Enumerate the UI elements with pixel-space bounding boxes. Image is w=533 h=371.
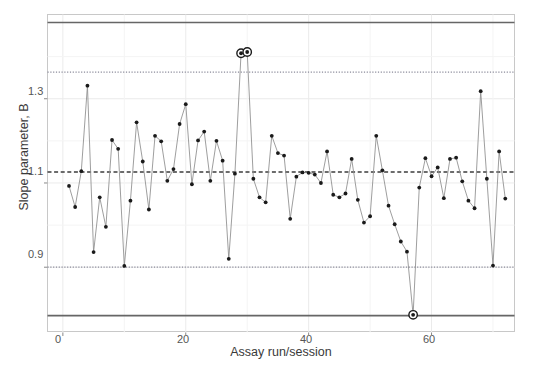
- data-point: [159, 139, 163, 143]
- data-point: [147, 208, 151, 212]
- data-point: [387, 204, 391, 208]
- data-point: [350, 157, 354, 161]
- data-point: [190, 182, 194, 186]
- data-point: [380, 168, 384, 172]
- data-point: [67, 184, 71, 188]
- data-point: [86, 84, 90, 88]
- data-point: [208, 179, 212, 183]
- data-point: [264, 200, 268, 204]
- data-point: [276, 151, 280, 155]
- flagged-point: [409, 311, 417, 319]
- reference-lines: [48, 23, 515, 316]
- data-point: [362, 221, 366, 225]
- data-point: [442, 196, 446, 200]
- data-point: [337, 195, 341, 199]
- data-point: [405, 250, 409, 254]
- data-point: [301, 171, 305, 175]
- chart-root: Slope parameter, B Assay run/session 1.3…: [0, 0, 533, 371]
- data-point: [325, 149, 329, 153]
- data-point: [172, 167, 176, 171]
- data-point: [467, 199, 471, 203]
- data-point: [436, 165, 440, 169]
- data-point: [448, 157, 452, 161]
- data-point: [368, 214, 372, 218]
- data-point: [460, 179, 464, 183]
- data-point: [251, 177, 255, 181]
- data-point: [178, 122, 182, 126]
- data-point: [399, 240, 403, 244]
- data-point: [104, 225, 108, 229]
- data-point: [503, 197, 507, 201]
- data-point: [122, 264, 126, 268]
- data-point: [233, 172, 237, 176]
- data-point: [374, 134, 378, 138]
- data-point: [202, 130, 206, 134]
- data-point: [473, 206, 477, 210]
- data-point: [129, 199, 133, 203]
- data-point: [184, 102, 188, 106]
- data-point: [98, 195, 102, 199]
- axis-ticks: [44, 99, 432, 336]
- data-point: [497, 149, 501, 153]
- data-point: [110, 138, 114, 142]
- data-point: [491, 264, 495, 268]
- data-point: [141, 160, 145, 164]
- data-point: [319, 181, 323, 185]
- data-point: [153, 134, 157, 138]
- data-point: [92, 250, 96, 254]
- data-point: [331, 193, 335, 197]
- data-point: [135, 120, 139, 124]
- chart-canvas: [0, 0, 533, 371]
- data-point: [258, 195, 262, 199]
- data-point: [424, 156, 428, 160]
- data-point: [454, 156, 458, 160]
- data-point: [313, 173, 317, 177]
- gridlines: [48, 15, 515, 333]
- data-point: [393, 222, 397, 226]
- data-point: [282, 154, 286, 158]
- data-point: [221, 159, 225, 163]
- data-point: [270, 134, 274, 138]
- data-point: [79, 169, 83, 173]
- data-point: [196, 139, 200, 143]
- data-point: [356, 198, 360, 202]
- flagged-point: [243, 48, 251, 56]
- data-point: [307, 171, 311, 175]
- data-point: [294, 175, 298, 179]
- data-point: [479, 89, 483, 93]
- data-point: [485, 177, 489, 181]
- data-point: [430, 174, 434, 178]
- data-point: [116, 147, 120, 151]
- data-point: [227, 257, 231, 261]
- data-point: [215, 139, 219, 143]
- data-point: [288, 217, 292, 221]
- data-point: [344, 192, 348, 196]
- data-point: [73, 205, 77, 209]
- data-point: [417, 186, 421, 190]
- data-point: [165, 179, 169, 183]
